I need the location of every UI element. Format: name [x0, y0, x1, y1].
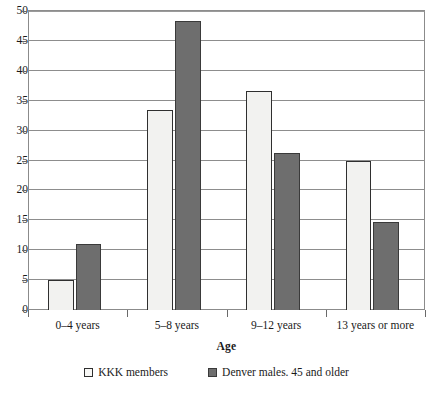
x-axis-tick-mark [326, 310, 327, 317]
bar-kkk-members [246, 91, 272, 310]
bar-groups [28, 11, 425, 310]
x-axis-category-label: 5–8 years [127, 318, 226, 332]
bar-kkk-members [147, 110, 173, 310]
x-axis-title: Age [28, 340, 425, 352]
y-axis-tick-mark [22, 250, 27, 251]
x-axis-tick-mark [425, 310, 426, 317]
bar-kkk-members [346, 161, 372, 311]
bar-chart: 05101520253035404550 0–4 years5–8 years9… [0, 0, 433, 396]
y-axis-tick-mark [22, 220, 27, 221]
bar-group [28, 11, 127, 310]
bar-denver-males [175, 21, 201, 310]
y-axis-tick-mark [22, 71, 27, 72]
y-axis-tick-mark [22, 11, 27, 12]
y-axis-tick-mark [22, 310, 27, 311]
x-axis-tick-mark [227, 310, 228, 317]
chart-legend: KKK membersDenver males. 45 and older [0, 366, 433, 378]
bar-group [227, 11, 326, 310]
y-axis-tick-mark [22, 280, 27, 281]
x-axis-category-label: 9–12 years [227, 318, 326, 332]
plot-area [28, 11, 425, 310]
bar-group [326, 11, 425, 310]
bar-denver-males [373, 222, 399, 310]
bar-denver-males [76, 244, 102, 310]
y-axis-tick-mark [22, 101, 27, 102]
x-axis-category-label: 0–4 years [28, 318, 127, 332]
bar-group [127, 11, 226, 310]
light-square-swatch [84, 368, 93, 377]
y-axis-tick-mark [22, 161, 27, 162]
bar-denver-males [274, 153, 300, 310]
legend-label: KKK members [98, 366, 168, 378]
bar-kkk-members [48, 280, 74, 310]
legend-label: Denver males. 45 and older [222, 366, 349, 378]
legend-item: Denver males. 45 and older [208, 366, 349, 378]
x-axis-category-label: 13 years or more [326, 318, 425, 332]
y-axis-tick-mark [22, 41, 27, 42]
dark-square-swatch [208, 368, 217, 377]
y-axis-tick-mark [22, 131, 27, 132]
x-axis-tick-mark [127, 310, 128, 317]
y-axis: 05101520253035404550 [0, 11, 28, 310]
y-axis-tick-mark [22, 190, 27, 191]
x-axis-tick-mark [28, 310, 29, 317]
legend-item: KKK members [84, 366, 168, 378]
x-axis: 0–4 years5–8 years9–12 years13 years or … [28, 310, 425, 336]
x-axis-labels: 0–4 years5–8 years9–12 years13 years or … [28, 318, 425, 332]
